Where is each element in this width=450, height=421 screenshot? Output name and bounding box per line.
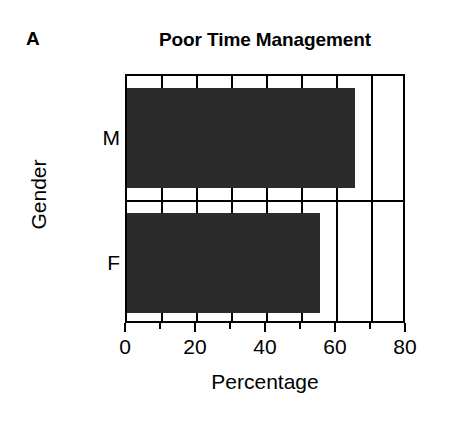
panel-label: A [26,29,40,48]
x-axis-title: Percentage [125,371,405,392]
x-tick-label-20: 20 [165,336,225,357]
x-tick-major-60 [334,323,336,332]
x-tick-major-20 [194,323,196,332]
x-tick-major-80 [404,323,406,332]
x-tick-major-40 [264,323,266,332]
plot-area [125,74,405,323]
figure-panel-a: A Poor Time Management Gender M F 020406… [0,0,450,421]
bar-f [127,213,320,313]
x-tick-label-60: 60 [305,336,365,357]
y-axis-title: Gender [28,95,49,295]
x-tick-minor-50 [299,323,301,329]
y-tick-label-f: F [86,252,120,273]
x-tick-label-40: 40 [235,336,295,357]
x-tick-label-80: 80 [375,336,435,357]
x-tick-minor-30 [229,323,231,329]
bar-m [127,88,355,188]
x-tick-major-0 [124,323,126,332]
gridline-x-70 [371,76,373,321]
x-tick-minor-10 [159,323,161,329]
category-divider [127,200,403,202]
y-tick-label-m: M [86,127,120,148]
chart-title: Poor Time Management [125,30,405,49]
x-tick-label-0: 0 [95,336,155,357]
plot-inner [127,76,403,321]
x-tick-minor-70 [369,323,371,329]
